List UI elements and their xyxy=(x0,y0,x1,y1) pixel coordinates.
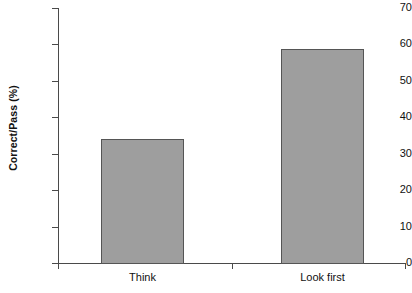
y-tick-mark-10 xyxy=(52,227,58,228)
y-tick-label-40: 40 xyxy=(366,111,412,122)
y-tick-label-70: 70 xyxy=(366,2,412,13)
x-tick-mark-middle xyxy=(232,263,233,269)
x-tick-label-think: Think xyxy=(101,271,184,283)
y-tick-label-50: 50 xyxy=(366,75,412,86)
x-tick-label-look-first: Look first xyxy=(281,271,364,283)
bar-look-first xyxy=(281,49,364,264)
y-tick-mark-40 xyxy=(52,117,58,118)
y-tick-mark-20 xyxy=(52,190,58,191)
x-tick-mark-start xyxy=(58,263,59,269)
y-tick-label-60: 60 xyxy=(366,38,412,49)
y-tick-label-20: 20 xyxy=(366,184,412,195)
bar-think xyxy=(101,139,184,264)
y-axis-title: Correct/Pass (%) xyxy=(7,63,19,193)
y-tick-mark-60 xyxy=(52,44,58,45)
y-tick-mark-50 xyxy=(52,81,58,82)
bar-chart: Correct/Pass (%) 70 60 50 40 30 20 10 0 … xyxy=(0,0,412,293)
y-axis-line xyxy=(58,8,59,264)
x-tick-mark-end xyxy=(405,263,406,269)
y-tick-label-30: 30 xyxy=(366,148,412,159)
y-tick-label-10: 10 xyxy=(366,221,412,232)
y-tick-mark-70 xyxy=(52,8,58,9)
y-tick-mark-30 xyxy=(52,154,58,155)
